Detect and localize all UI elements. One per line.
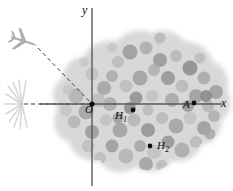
point-label-origin: O: [85, 104, 93, 115]
airplane-icon: [6, 26, 41, 56]
cloud-diagram-svg: [0, 0, 233, 191]
point-H1-dot: [131, 108, 136, 113]
y-axis-label: y: [82, 4, 87, 16]
point-label-h1-subscript: 1: [123, 115, 127, 124]
diagram-canvas: y x O H1 H2 A: [0, 0, 233, 191]
point-label-h2: H2: [157, 140, 169, 153]
radar-burst-icon: [4, 80, 27, 129]
point-label-h1-letter: H: [115, 109, 123, 121]
point-H2-dot: [148, 144, 153, 149]
point-label-h1: H1: [115, 110, 127, 123]
point-A-dot: [192, 101, 197, 106]
x-axis-label: x: [221, 97, 226, 109]
point-label-h2-letter: H: [157, 139, 165, 151]
point-label-h2-subscript: 2: [165, 145, 169, 154]
point-label-a: A: [183, 99, 190, 110]
